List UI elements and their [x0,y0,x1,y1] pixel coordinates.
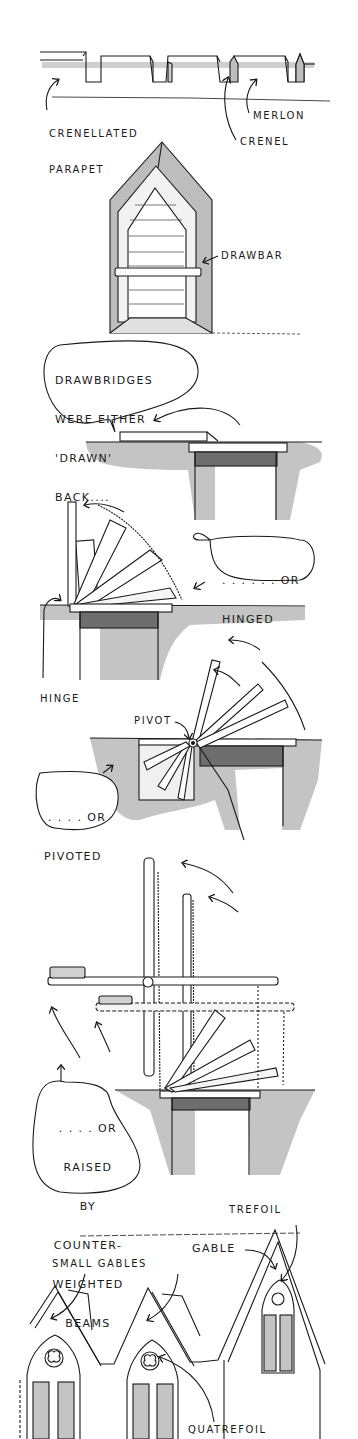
label-merlon: MERLON [253,110,305,122]
bubble-line: . . . . . . OR [222,574,300,587]
bubble-counterweighted: . . . . OR RAISED BY COUNTER- WEIGHTED B… [38,1096,138,1343]
bubble-line: HINGED [222,613,300,626]
label-gable: GABLE [192,1242,236,1255]
bubble-line: WERE EITHER [55,413,153,426]
label-hinge: HINGE [40,693,80,705]
label-crenel: CRENEL [240,136,289,148]
label-crenellated-line1: CRENELLATED [49,128,138,140]
bubble-line: PIVOTED [44,850,106,863]
bubble-line: . . . . OR [44,811,106,824]
label-quatrefoil: QUATREFOIL [188,1424,267,1436]
gothic-doorway-drawing [110,142,300,334]
bubble-line: BACK.... [55,491,153,504]
label-small-gables: SMALL GABLES [52,1258,147,1270]
bubble-line: BEAMS [38,1317,138,1330]
bubble-pivoted: . . . . OR PIVOTED [44,785,106,876]
label-crenellated-line2: PARAPET [49,164,138,176]
bubble-line: . . . . OR [38,1122,138,1135]
bubble-hinged: . . . . . . OR HINGED [222,548,300,639]
bubble-line: 'DRAWN' [55,452,153,465]
bubble-line: COUNTER- [38,1239,138,1252]
bubble-line: BY [38,1200,138,1213]
label-pivot: PIVOT [134,715,172,727]
label-drawbar: DRAWBAR [221,250,283,262]
bubble-line: DRAWBRIDGES [55,374,153,387]
bubble-line: RAISED [38,1161,138,1174]
bubble-drawn-back: DRAWBRIDGES WERE EITHER 'DRAWN' BACK.... [55,348,153,517]
bubble-line: WEIGHTED [38,1278,138,1291]
label-crenellated-parapet: CRENELLATED PARAPET [49,104,138,188]
label-trefoil: TREFOIL [229,1204,282,1216]
